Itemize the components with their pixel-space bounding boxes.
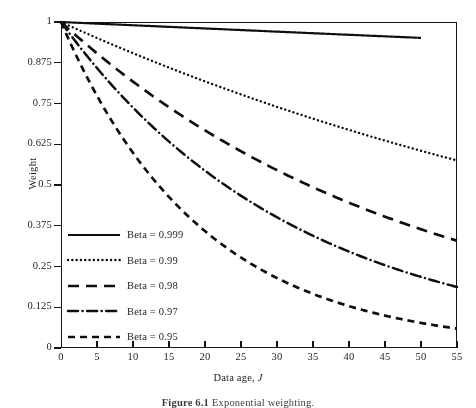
y-axis-tick-label: 0 xyxy=(47,341,52,352)
x-axis-tick xyxy=(204,341,205,348)
figure-caption-number: Figure 6.1 xyxy=(162,397,209,408)
y-axis-tick xyxy=(54,307,61,308)
x-axis-tick-label: 55 xyxy=(452,351,463,362)
x-axis-tick-label: 50 xyxy=(416,351,427,362)
x-axis-tick-label: 40 xyxy=(344,351,355,362)
figure-caption-text: Exponential weighting. xyxy=(212,397,314,408)
x-axis-tick-label: 15 xyxy=(164,351,175,362)
y-axis-tick-label: 0.5 xyxy=(38,178,52,189)
x-axis-tick-label: 0 xyxy=(58,351,63,362)
legend-line-sample xyxy=(68,280,120,292)
legend-item: Beta = 0.97 xyxy=(68,299,183,325)
y-axis-tick-label: 1 xyxy=(47,15,52,26)
y-axis-tick xyxy=(54,347,61,348)
x-axis-tick xyxy=(420,341,421,348)
x-axis-tick-label: 35 xyxy=(308,351,319,362)
y-axis-tick-label: 0.75 xyxy=(33,97,52,108)
legend-label: Beta = 0.97 xyxy=(127,306,178,317)
legend-label: Beta = 0.99 xyxy=(127,255,178,266)
y-axis-tick xyxy=(54,103,61,104)
legend-item: Beta = 0.99 xyxy=(68,248,183,274)
y-axis-tick xyxy=(54,266,61,267)
y-axis-tick-label: 0.25 xyxy=(33,260,52,271)
x-axis-tick-label: 20 xyxy=(200,351,211,362)
y-axis-tick-label: 0.375 xyxy=(27,219,52,230)
y-axis-tick-label: 0.875 xyxy=(27,56,52,67)
legend-label: Beta = 0.999 xyxy=(127,229,183,240)
x-axis-title: Data age, J xyxy=(0,372,476,383)
y-axis-tick xyxy=(54,62,61,63)
y-axis-tick xyxy=(54,144,61,145)
x-axis-tick-label: 30 xyxy=(272,351,283,362)
y-axis-tick-label: 0.125 xyxy=(27,300,52,311)
chart-legend: Beta = 0.999Beta = 0.99Beta = 0.98Beta =… xyxy=(68,222,183,350)
y-axis-tick xyxy=(54,21,61,22)
legend-label: Beta = 0.95 xyxy=(127,331,178,342)
legend-line-sample xyxy=(68,229,120,241)
legend-line-sample xyxy=(68,305,120,317)
x-axis-title-symbol: J xyxy=(258,372,263,383)
x-axis-tick xyxy=(240,341,241,348)
chart-line-0.999 xyxy=(61,22,421,38)
y-axis-tick xyxy=(54,184,61,185)
y-axis-tick xyxy=(54,225,61,226)
legend-line-sample xyxy=(68,254,120,266)
figure-caption: Figure 6.1 Exponential weighting. xyxy=(0,397,476,408)
x-axis-tick xyxy=(276,341,277,348)
x-axis-tick xyxy=(348,341,349,348)
x-axis-tick xyxy=(384,341,385,348)
legend-item: Beta = 0.98 xyxy=(68,273,183,299)
legend-item: Beta = 0.999 xyxy=(68,222,183,248)
x-axis-tick-label: 45 xyxy=(380,351,391,362)
y-axis-title: Weight xyxy=(27,134,38,214)
legend-item: Beta = 0.95 xyxy=(68,324,183,350)
x-axis-tick xyxy=(456,341,457,348)
x-axis-tick xyxy=(312,341,313,348)
x-axis-tick-label: 5 xyxy=(94,351,99,362)
x-axis-title-text: Data age, xyxy=(213,372,257,383)
chart-line-0.99 xyxy=(61,22,457,160)
x-axis-tick-label: 10 xyxy=(128,351,139,362)
legend-label: Beta = 0.98 xyxy=(127,280,178,291)
x-axis-tick-label: 25 xyxy=(236,351,247,362)
legend-line-sample xyxy=(68,331,120,343)
